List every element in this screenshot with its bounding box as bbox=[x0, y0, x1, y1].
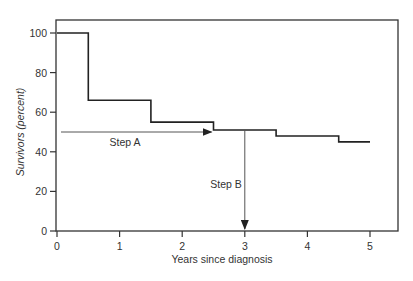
x-tick-label: 4 bbox=[304, 240, 310, 252]
step-a-label: Step A bbox=[110, 136, 141, 148]
survival-step-line bbox=[57, 33, 370, 142]
y-tick-label: 0 bbox=[41, 225, 47, 237]
step-b-label: Step B bbox=[210, 178, 242, 190]
y-tick-label: 100 bbox=[29, 27, 47, 39]
x-tick-label: 0 bbox=[54, 240, 60, 252]
y-axis: 020406080100 bbox=[29, 27, 56, 237]
y-tick-label: 40 bbox=[35, 146, 47, 158]
y-tick-label: 60 bbox=[35, 106, 47, 118]
y-axis-title: Survivors (percent) bbox=[14, 88, 26, 177]
x-tick-label: 1 bbox=[117, 240, 123, 252]
plot-border bbox=[56, 20, 398, 231]
y-tick-label: 20 bbox=[35, 185, 47, 197]
annotations: Step AStep B bbox=[61, 130, 245, 229]
x-tick-label: 2 bbox=[179, 240, 185, 252]
survival-chart: 020406080100 012345 Step AStep B Years s… bbox=[0, 0, 413, 281]
x-tick-label: 5 bbox=[367, 240, 373, 252]
x-axis-title: Years since diagnosis bbox=[171, 253, 272, 265]
plot-frame bbox=[56, 20, 398, 231]
y-tick-label: 80 bbox=[35, 67, 47, 79]
step-line bbox=[57, 33, 370, 142]
x-tick-label: 3 bbox=[242, 240, 248, 252]
x-axis: 012345 bbox=[54, 231, 373, 252]
